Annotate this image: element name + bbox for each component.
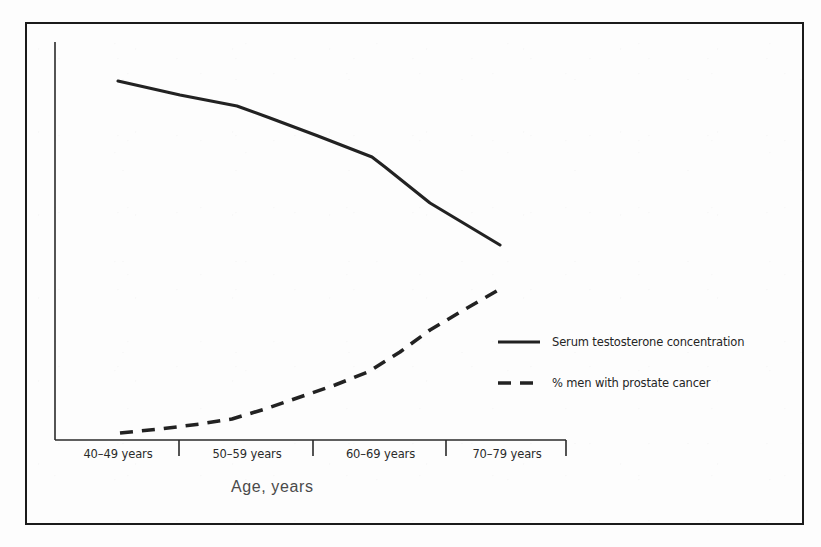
figure-panel: 40–49 years 50–59 years 60–69 years 70–7… [0,0,821,547]
x-tick-label-70-79: 70–79 years [448,447,566,461]
x-tick-label-40-49: 40–49 years [57,447,179,461]
legend-label-prostate-cancer: % men with prostate cancer [552,376,710,390]
legend-label-serum-testosterone: Serum testosterone concentration [552,335,744,349]
x-tick-label-50-59: 50–59 years [181,447,313,461]
x-axis-title: Age, years [231,478,313,496]
x-tick-label-60-69: 60–69 years [315,447,446,461]
